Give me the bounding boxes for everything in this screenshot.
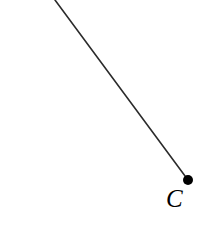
diagram-canvas [0, 0, 217, 229]
canvas-background [0, 0, 217, 229]
point-label-c: C [166, 186, 183, 211]
point-marker-c [183, 175, 193, 185]
geometry-diagram: C [0, 0, 217, 229]
